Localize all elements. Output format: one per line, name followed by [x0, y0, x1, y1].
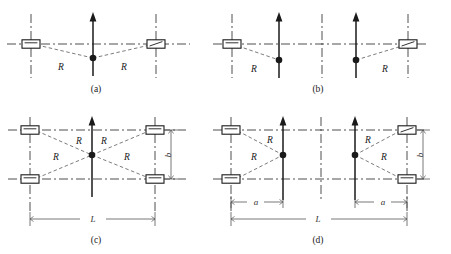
diagram-svg: R R (a) R R (b)	[0, 0, 451, 254]
panel-d-r-label-bottom-left: R	[250, 152, 257, 162]
panel-d-r-line-bottom-left	[238, 155, 283, 178]
panel-c-conductor-bottom-right	[146, 175, 164, 183]
panel-b-r-label-right: R	[381, 64, 388, 74]
panel-b-tower-node-right	[353, 57, 360, 64]
panel-d-conductor-bottom-left	[222, 175, 240, 183]
panel-b: R R (b)	[213, 12, 426, 95]
panel-c-r-label-bottom-left: R	[52, 152, 59, 162]
panel-b-tower-arrow-right	[353, 12, 360, 78]
panel-b-r-label-left: R	[250, 64, 257, 74]
panel-b-conductor-left	[223, 40, 241, 48]
panel-a: R R (a)	[7, 12, 190, 95]
panel-d-caption: (d)	[312, 235, 323, 246]
panel-d-dimension-a-right-label: a	[381, 197, 386, 207]
figure-container: R R (a) R R (b)	[0, 0, 451, 254]
panel-c-caption: (c)	[91, 235, 102, 246]
panel-a-r-line-right	[93, 45, 150, 58]
panel-d-r-line-top-right	[355, 131, 400, 155]
panel-d-dimension-a-left-label: a	[254, 197, 259, 207]
panel-d-dimension-L-label: L	[314, 214, 320, 224]
panel-a-tower-node	[90, 55, 97, 62]
panel-b-caption: (b)	[312, 84, 323, 95]
panel-c-dimension-b: b	[163, 130, 178, 179]
panel-c-conductor-bottom-left	[21, 175, 39, 183]
panel-d-r-label-bottom-right: R	[380, 152, 387, 162]
panel-c-r-line-top-left	[37, 131, 92, 155]
panel-d-conductor-top-right	[398, 126, 416, 134]
panel-c-dimension-b-label: b	[163, 152, 173, 157]
panel-c-dimension-L: L	[30, 212, 155, 226]
panel-a-r-label-right: R	[120, 62, 127, 72]
panel-d-dimension-L: L	[231, 212, 407, 226]
panel-c-r-label-top-right: R	[100, 136, 107, 146]
panel-c-conductor-top-left	[21, 126, 39, 134]
panel-d-dimension-b-label: b	[415, 152, 425, 157]
panel-d-r-label-top-left: R	[266, 135, 273, 145]
panel-d-r-label-top-right: R	[364, 135, 371, 145]
panel-c-tower-node	[89, 152, 96, 159]
panel-a-r-label-left: R	[57, 62, 64, 72]
panel-c-conductor-top-right	[146, 126, 164, 134]
panel-d-tower-node-left	[280, 152, 287, 159]
panel-d-dimension-a-right: a	[355, 196, 407, 208]
panel-d-conductor-bottom-right	[398, 175, 416, 183]
panel-d-r-line-top-left	[238, 131, 283, 155]
panel-a-caption: (a)	[91, 84, 102, 95]
panel-b-r-line-right	[356, 46, 402, 60]
panel-c: R R R R b L (c)	[8, 116, 186, 246]
panel-a-conductor-left	[22, 40, 40, 48]
panel-d: R R R R b a	[213, 116, 430, 246]
panel-d-dimension-a-left: a	[231, 196, 283, 208]
panel-d-r-line-bottom-right	[355, 155, 400, 178]
panel-c-r-line-bottom-left	[37, 155, 92, 178]
panel-a-conductor-right	[147, 40, 165, 48]
panel-a-r-line-left	[37, 45, 93, 58]
panel-b-tower-node-left	[276, 57, 283, 64]
panel-c-dimension-L-label: L	[89, 214, 95, 224]
panel-c-r-line-bottom-right	[92, 155, 149, 178]
panel-b-tower-arrow-left	[276, 12, 283, 78]
panel-c-r-label-top-left: R	[75, 136, 82, 146]
panel-d-tower-node-right	[352, 152, 359, 159]
panel-d-dimension-b: b	[415, 130, 430, 179]
panel-b-conductor-right	[399, 40, 417, 48]
panel-c-r-label-bottom-right: R	[123, 152, 130, 162]
panel-b-r-line-left	[238, 46, 279, 60]
panel-d-conductor-top-left	[222, 126, 240, 134]
